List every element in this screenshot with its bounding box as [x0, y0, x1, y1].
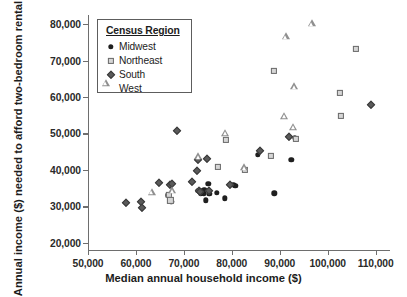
x-axis-tick: [136, 250, 137, 255]
data-point: [154, 179, 163, 188]
marker-filled-circle: [108, 44, 113, 49]
data-point: [271, 68, 277, 74]
data-point: [214, 190, 219, 195]
y-axis-tick-label: 50,000: [50, 128, 81, 139]
data-point: [353, 45, 359, 51]
data-point: [282, 32, 290, 39]
data-point: [187, 178, 196, 187]
data-point: [222, 129, 230, 136]
legend-item-label: Northeast: [119, 55, 162, 66]
y-axis-tick: [83, 24, 88, 25]
legend-item-label: Midwest: [119, 41, 156, 52]
x-axis-tick-label: 70,000: [168, 258, 199, 269]
data-point: [222, 196, 227, 201]
y-axis-tick: [83, 243, 88, 244]
marker-open-triangle: [102, 79, 110, 86]
data-point: [337, 90, 343, 96]
data-point: [167, 197, 173, 203]
legend-title: Census Region: [106, 25, 191, 36]
data-point: [367, 100, 376, 109]
x-axis-tick: [88, 250, 89, 255]
legend-entries: MidwestNortheastSouthWest: [106, 40, 191, 96]
x-axis-tick-label: 50,000: [73, 258, 104, 269]
data-point: [240, 163, 248, 170]
x-axis-tick-label: 60,000: [120, 258, 151, 269]
x-axis-tick: [280, 250, 281, 255]
x-axis-tick-label: 80,000: [216, 258, 247, 269]
data-point: [194, 153, 202, 160]
data-point: [290, 82, 298, 89]
y-axis-tick: [83, 133, 88, 134]
data-point: [215, 163, 221, 169]
data-point: [289, 157, 294, 162]
x-axis-tick: [232, 250, 233, 255]
legend-item-label: West: [119, 83, 142, 94]
data-point: [338, 113, 344, 119]
x-axis-tick: [328, 250, 329, 255]
data-point: [223, 137, 229, 143]
marker-open-square: [108, 57, 114, 63]
data-point: [168, 186, 176, 193]
data-point: [172, 126, 181, 135]
y-axis-tick: [83, 170, 88, 171]
y-axis-tick: [83, 206, 88, 207]
data-point: [272, 190, 277, 195]
data-point: [308, 20, 316, 27]
data-point: [192, 167, 201, 176]
x-axis-tick: [184, 250, 185, 255]
data-point: [203, 198, 208, 203]
y-axis-title: Annual income ($) needed to afford two-b…: [2, 0, 36, 297]
y-axis-tick-label: 20,000: [50, 237, 81, 248]
y-axis-tick-label: 80,000: [50, 19, 81, 30]
y-axis-tick-label: 70,000: [50, 55, 81, 66]
data-point: [148, 188, 156, 195]
legend-item-midwest[interactable]: Midwest: [106, 40, 191, 54]
legend-swatch: [106, 41, 119, 53]
legend-swatch: [106, 55, 119, 67]
data-point: [281, 112, 289, 119]
legend-item-south[interactable]: South: [106, 68, 191, 82]
legend-item-west[interactable]: West: [106, 82, 191, 96]
data-point: [268, 153, 274, 159]
x-axis-tick-label: 100,000: [309, 258, 346, 269]
legend: Census Region MidwestNortheastSouthWest: [97, 19, 192, 93]
legend-item-northeast[interactable]: Northeast: [106, 54, 191, 68]
y-axis-tick-label: 60,000: [50, 91, 81, 102]
legend-item-label: South: [119, 69, 145, 80]
data-point: [202, 154, 211, 163]
data-point: [121, 198, 130, 207]
x-axis-tick: [376, 250, 377, 255]
x-axis-tick-label: 110,000: [358, 258, 394, 269]
x-axis-title: Median annual household income ($): [0, 272, 407, 284]
y-axis-tick: [83, 97, 88, 98]
scatter-chart-figure: 20,00030,00040,00050,00060,00070,00080,0…: [0, 0, 407, 297]
legend-swatch: [106, 83, 119, 95]
x-axis-line: [88, 250, 390, 251]
y-axis-tick-label: 40,000: [50, 164, 81, 175]
data-point: [289, 123, 297, 130]
y-axis-tick-label: 30,000: [50, 201, 81, 212]
x-axis-tick-label: 90,000: [264, 258, 295, 269]
y-axis-tick: [83, 61, 88, 62]
